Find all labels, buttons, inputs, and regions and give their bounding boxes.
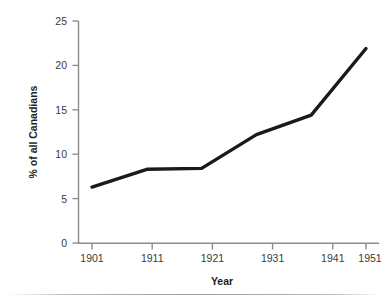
x-tick-label-1901: 1901	[80, 252, 104, 264]
y-tick-labels: 25 20 15 10 5 0	[55, 15, 67, 249]
x-axis-title: Year	[211, 275, 233, 287]
x-tick-labels: 1901 1911 1921 1931 1941 1951	[80, 252, 382, 264]
x-axis-ticks	[92, 243, 366, 249]
y-tick-label-15: 15	[55, 104, 67, 116]
y-tick-label-10: 10	[55, 148, 67, 160]
figure-container: 25 20 15 10 5 0 1901 1911 1921 1931 1941…	[0, 0, 389, 302]
y-tick-label-25: 25	[55, 15, 67, 27]
x-tick-label-1921: 1921	[201, 252, 225, 264]
x-tick-label-1941: 1941	[321, 252, 345, 264]
y-tick-label-5: 5	[61, 193, 67, 205]
axis-spines	[78, 21, 379, 244]
y-tick-label-0: 0	[61, 237, 67, 249]
x-tick-label-1911: 1911	[141, 252, 164, 264]
y-tick-label-20: 20	[55, 59, 67, 71]
x-tick-label-1951: 1951	[358, 252, 382, 264]
line-chart: 25 20 15 10 5 0 1901 1911 1921 1931 1941…	[0, 0, 389, 302]
y-axis-title: % of all Canadians	[27, 85, 39, 178]
data-series-line	[92, 49, 366, 188]
y-axis-ticks	[73, 21, 79, 243]
footer-divider	[8, 294, 382, 295]
x-tick-label-1931: 1931	[261, 252, 285, 264]
